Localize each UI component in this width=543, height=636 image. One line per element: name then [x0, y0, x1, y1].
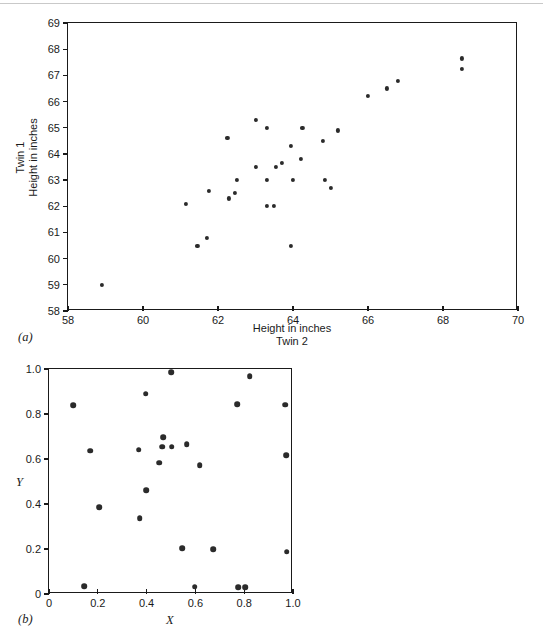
data-point — [283, 453, 289, 459]
panel-b-x-axis-title: X — [166, 613, 174, 628]
y-axis-tick — [44, 503, 49, 504]
y-axis-tick-label: 0.2 — [5, 544, 41, 555]
x-axis-tick-label: 1.0 — [285, 598, 300, 609]
x-axis-tick — [195, 589, 196, 594]
data-point — [210, 547, 216, 553]
data-point — [160, 434, 166, 440]
x-axis-tick — [292, 589, 293, 594]
y-axis-tick-label: 0.6 — [5, 454, 41, 465]
data-point — [184, 442, 190, 448]
data-point — [96, 504, 102, 510]
scatter-chart-panel-b: Y 00.20.40.60.81.000.20.40.60.81.0 X (b) — [0, 0, 543, 636]
data-point — [243, 585, 249, 591]
data-point — [282, 402, 288, 408]
panel-b-plot-area: 00.20.40.60.81.000.20.40.60.81.0 — [48, 368, 292, 593]
data-point — [168, 370, 174, 376]
x-axis-tick-label: 0.4 — [139, 598, 154, 609]
y-axis-tick-label: 0.4 — [5, 499, 41, 510]
y-axis-tick-label: 0 — [5, 589, 41, 600]
y-axis-tick-label: 1.0 — [5, 364, 41, 375]
x-axis-tick — [48, 589, 49, 594]
x-axis-tick-label: 0 — [46, 598, 52, 609]
x-axis-tick-label: 0.2 — [90, 598, 105, 609]
data-point — [143, 487, 149, 493]
x-axis-tick — [146, 589, 147, 594]
data-point — [247, 373, 253, 379]
data-point — [284, 549, 290, 555]
x-axis-tick-label: 0.8 — [237, 598, 252, 609]
data-point — [179, 545, 185, 551]
data-point — [156, 460, 162, 466]
x-axis-tick-label: 0.6 — [188, 598, 203, 609]
y-axis-tick — [44, 413, 49, 414]
data-point — [235, 584, 241, 590]
data-point — [197, 462, 203, 468]
data-point — [88, 448, 94, 454]
x-axis-tick — [97, 589, 98, 594]
data-point — [159, 444, 165, 450]
panel-b-label: (b) — [18, 612, 33, 627]
data-point — [71, 402, 77, 408]
y-axis-tick — [44, 368, 49, 369]
panel-b-y-axis-title: Y — [16, 475, 23, 490]
data-point — [235, 401, 241, 407]
data-point — [169, 444, 175, 450]
y-axis-tick — [44, 458, 49, 459]
data-point — [136, 447, 142, 453]
y-axis-tick — [44, 548, 49, 549]
data-point — [143, 391, 149, 397]
y-axis-tick-label: 0.8 — [5, 409, 41, 420]
data-point — [137, 515, 143, 521]
data-point — [82, 583, 88, 589]
data-point — [192, 584, 198, 590]
